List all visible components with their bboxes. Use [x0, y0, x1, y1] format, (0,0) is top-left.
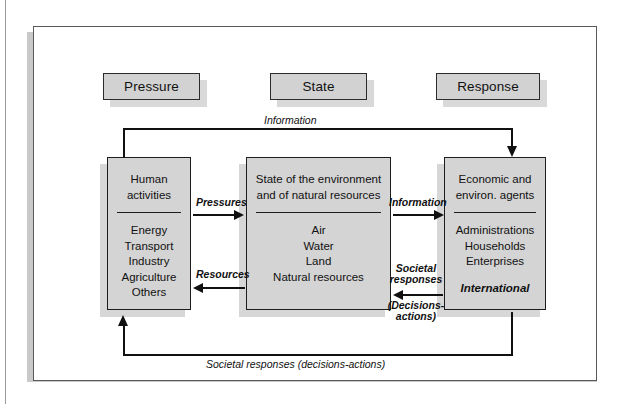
- header-chip-response: Response: [436, 73, 540, 100]
- header-chip-response-label: Response: [457, 79, 519, 94]
- arrow-information-top-down-icon: [507, 146, 517, 157]
- header-chip-state-label: State: [302, 79, 334, 94]
- box-human-activities-item-4: Others: [108, 285, 190, 301]
- box-human-activities-head: Human activities: [108, 158, 190, 203]
- box-state-environment-item-3: Natural resources: [247, 270, 390, 286]
- line-information-top-left-vertical: [123, 128, 125, 160]
- line-information-mid: [393, 214, 435, 216]
- box-human-activities-head-line2: activities: [108, 187, 190, 203]
- page-edge-rule: [5, 0, 6, 404]
- box-economic-agents-item-1: Households: [445, 239, 545, 255]
- header-chip-pressure: Pressure: [103, 73, 200, 100]
- box-human-activities-item-2: Industry: [108, 254, 190, 270]
- box-state-environment: State of the environment and of natural …: [246, 157, 391, 310]
- arrow-information-mid-right-icon: [434, 210, 444, 220]
- label-societal-responses-line4: actions): [389, 310, 443, 322]
- box-human-activities: Human activities Energy Transport Indust…: [107, 157, 191, 310]
- box-state-environment-item-2: Land: [247, 254, 390, 270]
- arrow-pressures-right-icon: [234, 210, 244, 220]
- box-human-activities-item-0: Energy: [108, 223, 190, 239]
- box-economic-agents-head-line1: Economic and: [445, 171, 545, 187]
- line-information-top-horizontal: [123, 128, 513, 130]
- header-chip-pressure-label: Pressure: [124, 79, 179, 94]
- box-human-activities-head-line1: Human: [108, 171, 190, 187]
- label-pressures: Pressures: [196, 196, 247, 208]
- box-human-activities-item-3: Agriculture: [108, 270, 190, 286]
- box-state-environment-item-1: Water: [247, 239, 390, 255]
- line-societal-bottom-horizontal: [123, 354, 513, 356]
- box-state-environment-head-line1: State of the environment: [247, 171, 390, 187]
- box-state-environment-head-line2: and of natural resources: [247, 187, 390, 203]
- box-human-activities-body: Energy Transport Industry Agriculture Ot…: [108, 213, 190, 301]
- label-resources: Resources: [196, 268, 250, 280]
- box-economic-agents-head: Economic and environ. agents: [445, 158, 545, 203]
- line-societal-responses: [403, 294, 443, 296]
- box-state-environment-item-0: Air: [247, 223, 390, 239]
- line-societal-bottom-left-vertical: [123, 326, 125, 355]
- line-resources: [203, 287, 245, 289]
- box-economic-agents-item-2: Enterprises: [445, 254, 545, 270]
- line-pressures: [193, 214, 235, 216]
- line-societal-bottom-right-vertical: [511, 312, 513, 356]
- box-state-environment-head: State of the environment and of natural …: [247, 158, 390, 203]
- box-economic-agents-head-line2: environ. agents: [445, 187, 545, 203]
- label-societal-responses-bottom: Societal responses (decisions-actions): [206, 358, 385, 370]
- arrow-societal-bottom-up-icon: [118, 315, 128, 326]
- box-human-activities-item-1: Transport: [108, 239, 190, 255]
- box-economic-agents: Economic and environ. agents Administrat…: [444, 157, 546, 310]
- box-economic-agents-item-0: Administrations: [445, 223, 545, 239]
- box-economic-agents-emphasis: International: [445, 281, 545, 297]
- arrow-resources-left-icon: [193, 283, 203, 293]
- label-societal-responses-line2: responses: [388, 273, 444, 285]
- box-economic-agents-body: Administrations Households Enterprises I…: [445, 213, 545, 296]
- box-state-environment-body: Air Water Land Natural resources: [247, 213, 390, 285]
- label-information-mid: Information: [389, 196, 447, 208]
- label-information-top: Information: [264, 114, 317, 126]
- header-chip-state: State: [270, 73, 367, 100]
